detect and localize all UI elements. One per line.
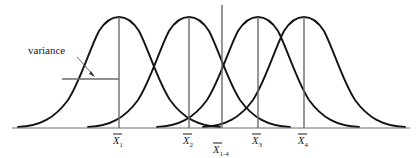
bell-curves (18, 17, 405, 127)
variance-annotation (62, 57, 119, 79)
tick-label-x3: X3 (251, 134, 262, 149)
tick-label-x1: X1 (112, 134, 123, 149)
statistics-figure: X1 X2 X1-4 X3 X4 variance (0, 0, 418, 158)
tick-text-x1: X1 (112, 135, 123, 149)
tick-label-x2: X2 (182, 134, 193, 149)
tick-text-x2: X2 (182, 135, 193, 149)
tick-label-x4: X4 (297, 134, 308, 149)
tick-text-x4: X4 (297, 135, 308, 149)
variance-label: variance (28, 44, 65, 56)
distribution-plot: X1 X2 X1-4 X3 X4 variance (0, 0, 418, 158)
mean-drop-lines (119, 5, 304, 128)
clipped-caption (0, 149, 418, 158)
tick-text-x3: X3 (251, 135, 262, 149)
